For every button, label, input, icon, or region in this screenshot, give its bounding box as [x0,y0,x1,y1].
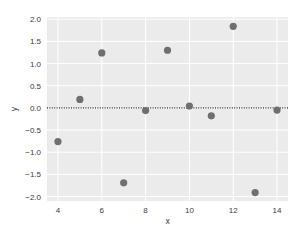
data-point [54,138,61,145]
data-point [208,112,215,119]
x-tick-label: 12 [229,206,238,215]
data-point [98,49,105,56]
x-axis-label: x [165,216,170,226]
data-point [273,107,280,114]
y-tick-label: 1.5 [30,37,42,46]
x-axis-ticks: 468101214 [56,206,282,215]
data-point [164,47,171,54]
y-tick-label: 1.0 [30,60,42,69]
x-tick-label: 4 [56,206,61,215]
scatter-chart: 2.01.51.00.50.0−0.5−1.0−1.5−2.0 46810121… [0,0,300,237]
data-point [252,189,259,196]
y-axis-label: y [9,106,19,111]
x-tick-label: 14 [273,206,282,215]
y-tick-label: −1.0 [25,148,41,157]
x-tick-label: 6 [100,206,105,215]
y-tick-label: −1.5 [25,170,41,179]
data-point [120,179,127,186]
x-tick-label: 8 [143,206,148,215]
x-tick-label: 10 [185,206,194,215]
y-tick-label: 0.5 [30,82,42,91]
y-tick-label: 2.0 [30,15,42,24]
data-point [142,107,149,114]
y-tick-label: −2.0 [25,193,41,202]
plot-area [47,17,288,201]
data-point [76,96,83,103]
data-point [186,103,193,110]
y-axis-ticks: 2.01.51.00.50.0−0.5−1.0−1.5−2.0 [25,15,41,201]
data-point [230,23,237,30]
y-tick-label: −0.5 [25,126,41,135]
y-tick-label: 0.0 [30,104,42,113]
